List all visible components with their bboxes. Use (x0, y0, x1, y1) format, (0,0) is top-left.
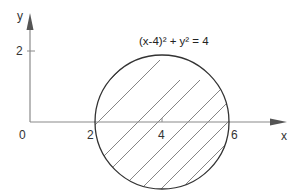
circle-equation: (x-4)² + y² = 4 (139, 35, 209, 47)
y-tick-label-2: 2 (16, 44, 23, 58)
y-axis-label: y (17, 9, 23, 23)
origin-label: 0 (19, 128, 26, 142)
x-tick-label-6: 6 (231, 128, 238, 142)
circle-diagram: y 2 0 2 4 6 x (x-4)² + y² = 4 (0, 0, 297, 196)
x-tick-label-2: 2 (87, 128, 94, 142)
circle-hatching (20, 50, 290, 196)
x-axis-arrow-icon (270, 119, 287, 126)
x-axis-label: x (281, 129, 287, 143)
y-axis-arrow-icon (27, 13, 34, 30)
x-tick-label-4: 4 (158, 128, 165, 142)
